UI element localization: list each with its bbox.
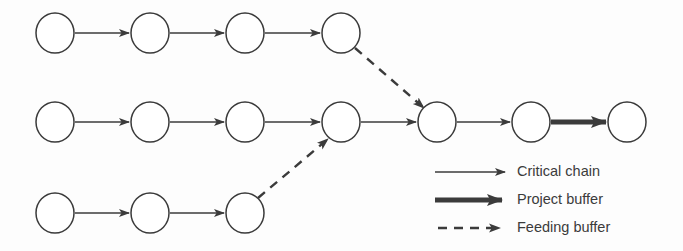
task-node [418,102,456,142]
edge-feeding-buffer [355,48,424,108]
task-node [512,102,550,142]
task-node [226,193,264,233]
task-node [131,102,169,142]
task-node [36,193,74,233]
task-node [322,13,360,53]
edge-feeding-buffer [258,139,328,198]
task-node [36,13,74,53]
task-node [131,13,169,53]
task-node [131,193,169,233]
legend-label-project-buffer: Project buffer [517,191,603,207]
legend-label-critical-chain: Critical chain [517,163,600,179]
task-node [226,13,264,53]
diagram-canvas: Critical chainProject bufferFeeding buff… [0,0,683,251]
legend: Critical chainProject bufferFeeding buff… [435,163,610,235]
task-node [36,102,74,142]
legend-label-feeding-buffer: Feeding buffer [517,219,610,235]
task-node [226,102,264,142]
task-node [608,102,646,142]
critical-chain-network-diagram: Critical chainProject bufferFeeding buff… [0,0,683,251]
task-node [322,102,360,142]
